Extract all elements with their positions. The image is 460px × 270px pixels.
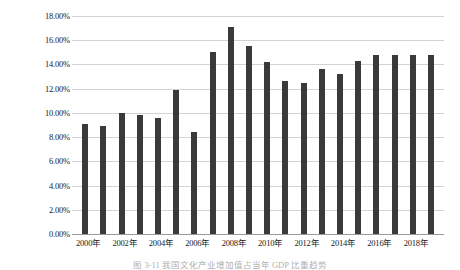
- figure-container: 0.00%2.00%4.00%6.00%8.00%10.00%12.00%14.…: [0, 0, 460, 270]
- x-slot: 2000年: [76, 236, 101, 250]
- bar-slot: [349, 16, 367, 234]
- bar[interactable]: [246, 46, 252, 234]
- bar-slot: [240, 16, 258, 234]
- bar[interactable]: [100, 126, 106, 234]
- x-slot: 2006年: [185, 236, 210, 250]
- bar-slot: [276, 16, 294, 234]
- axis-baseline: [72, 234, 444, 235]
- bar[interactable]: [155, 118, 161, 234]
- x-slot: .: [101, 236, 112, 250]
- x-slot: .: [247, 236, 258, 250]
- x-axis-tick-label: 2008年: [222, 236, 247, 248]
- bar-slot: [167, 16, 185, 234]
- bar-slot: [94, 16, 112, 234]
- bars-group: [72, 16, 444, 234]
- bar[interactable]: [410, 55, 416, 234]
- y-axis-tick-label: 6.00%: [49, 156, 70, 166]
- x-slot: 2012年: [294, 236, 319, 250]
- y-axis-tick-label: 8.00%: [49, 132, 70, 142]
- bar-slot: [222, 16, 240, 234]
- bar-slot: [258, 16, 276, 234]
- x-slot: 2008年: [222, 236, 247, 250]
- x-axis: 2000年.2002年.2004年.2006年.2008年.2010年.2012…: [72, 236, 444, 250]
- bar[interactable]: [428, 55, 434, 234]
- bar[interactable]: [228, 27, 234, 234]
- x-axis-tick-label: 2014年: [331, 236, 356, 248]
- y-axis-tick-label: 16.00%: [45, 35, 70, 45]
- bar-chart: 0.00%2.00%4.00%6.00%8.00%10.00%12.00%14.…: [0, 0, 460, 250]
- bar-slot: [385, 16, 403, 234]
- x-slot: 2004年: [149, 236, 174, 250]
- x-slot: 2018年: [404, 236, 429, 250]
- y-axis: 0.00%2.00%4.00%6.00%8.00%10.00%12.00%14.…: [26, 16, 70, 234]
- bar[interactable]: [282, 81, 288, 234]
- y-axis-tick-label: 0.00%: [49, 229, 70, 239]
- y-axis-tick-label: 4.00%: [49, 181, 70, 191]
- bar[interactable]: [337, 74, 343, 234]
- bar[interactable]: [392, 55, 398, 234]
- bar[interactable]: [301, 83, 307, 234]
- bar[interactable]: [137, 115, 143, 234]
- y-axis-tick-label: 14.00%: [45, 59, 70, 69]
- x-slot: .: [429, 236, 440, 250]
- bar[interactable]: [373, 55, 379, 234]
- bar[interactable]: [191, 132, 197, 234]
- bar-slot: [294, 16, 312, 234]
- x-axis-tick-label: 2010年: [258, 236, 283, 248]
- x-slot: 2016年: [367, 236, 392, 250]
- x-axis-tick-label: 2012年: [294, 236, 319, 248]
- x-axis-tick-label: 2000年: [76, 236, 101, 248]
- bar[interactable]: [264, 62, 270, 234]
- x-slot: .: [137, 236, 148, 250]
- bar[interactable]: [319, 69, 325, 234]
- x-axis-tick-label: 2004年: [149, 236, 174, 248]
- bar[interactable]: [82, 124, 88, 234]
- figure-caption: 图 3-11 我国文化产业增加值占当年 GDP 比重趋势: [0, 258, 460, 270]
- bar-slot: [112, 16, 130, 234]
- bar-slot: [131, 16, 149, 234]
- x-axis-tick-label: 2002年: [112, 236, 137, 248]
- bar-slot: [404, 16, 422, 234]
- x-slot: 2014年: [331, 236, 356, 250]
- bar-slot: [331, 16, 349, 234]
- bar[interactable]: [119, 113, 125, 234]
- x-slot: .: [283, 236, 294, 250]
- bar-slot: [367, 16, 385, 234]
- x-slot: .: [356, 236, 367, 250]
- bar[interactable]: [210, 52, 216, 234]
- x-slot: .: [210, 236, 221, 250]
- y-axis-tick-label: 18.00%: [45, 11, 70, 21]
- x-axis-tick-label: 2018年: [404, 236, 429, 248]
- x-slot: 2010年: [258, 236, 283, 250]
- y-axis-tick-label: 12.00%: [45, 84, 70, 94]
- x-slot: .: [392, 236, 403, 250]
- bar-slot: [313, 16, 331, 234]
- bar[interactable]: [173, 90, 179, 234]
- x-axis-tick-label: 2016年: [367, 236, 392, 248]
- y-axis-tick-label: 2.00%: [49, 205, 70, 215]
- bar-slot: [185, 16, 203, 234]
- bar-slot: [422, 16, 440, 234]
- bar-slot: [76, 16, 94, 234]
- bar-slot: [149, 16, 167, 234]
- y-axis-tick-label: 10.00%: [45, 108, 70, 118]
- x-slot: 2002年: [112, 236, 137, 250]
- x-axis-tick-label: 2006年: [185, 236, 210, 248]
- x-slot: .: [174, 236, 185, 250]
- bar[interactable]: [355, 61, 361, 234]
- bar-slot: [203, 16, 221, 234]
- x-slot: .: [319, 236, 330, 250]
